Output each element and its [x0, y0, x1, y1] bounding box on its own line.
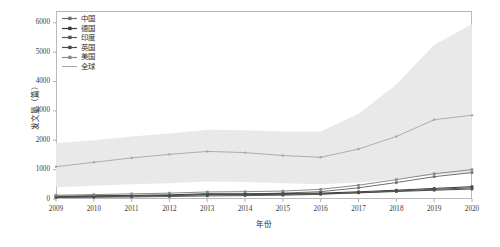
chart-legend: 中国德国印度英国美国全球	[61, 14, 95, 72]
legend-marker-icon	[61, 53, 78, 62]
x-axis-ticks	[56, 199, 472, 202]
chart-root: 0100020003000400050006000 20092010201120…	[0, 0, 500, 247]
legend-item-2[interactable]: 德国	[61, 24, 95, 34]
x-tick-label: 2020	[452, 205, 492, 213]
legend-marker-icon	[61, 33, 78, 42]
legend-item-3[interactable]: 印度	[61, 33, 95, 43]
x-axis-title: 年份	[234, 218, 294, 229]
global-range-band	[56, 24, 472, 187]
x-tick-label: 2010	[74, 205, 114, 213]
x-tick-label: 2015	[263, 205, 303, 213]
x-tick-label: 2016	[301, 205, 341, 213]
legend-label: 德国	[81, 24, 95, 34]
x-tick-label: 2012	[149, 205, 189, 213]
y-tick-label: 0	[16, 195, 50, 203]
legend-marker-icon	[61, 14, 78, 23]
legend-label: 美国	[81, 52, 95, 62]
legend-item-4[interactable]: 英国	[61, 43, 95, 53]
x-tick-label: 2017	[339, 205, 379, 213]
legend-marker-icon	[61, 43, 78, 52]
y-axis-title: 发文量（篇）	[29, 76, 40, 136]
legend-marker-icon	[61, 24, 78, 33]
y-tick-label: 2000	[16, 136, 50, 144]
y-tick-label: 1000	[16, 165, 50, 173]
legend-marker-icon	[61, 62, 78, 71]
legend-label: 英国	[81, 43, 95, 53]
y-tick-label: 5000	[16, 48, 50, 56]
y-axis-ticks	[53, 23, 56, 199]
x-tick-label: 2018	[376, 205, 416, 213]
y-tick-label: 6000	[16, 18, 50, 26]
x-tick-label: 2009	[36, 205, 76, 213]
x-tick-label: 2011	[112, 205, 152, 213]
legend-item-1[interactable]: 中国	[61, 14, 95, 24]
x-tick-label: 2014	[225, 205, 265, 213]
legend-item-5[interactable]: 美国	[61, 52, 95, 62]
legend-item-6[interactable]: 全球	[61, 62, 95, 72]
x-tick-label: 2019	[414, 205, 454, 213]
legend-label: 印度	[81, 33, 95, 43]
x-tick-label: 2013	[187, 205, 227, 213]
legend-label: 中国	[81, 14, 95, 24]
legend-label: 全球	[81, 62, 95, 72]
